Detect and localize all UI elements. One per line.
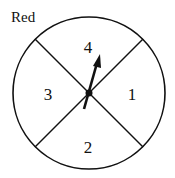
section-label-top: 4: [84, 38, 93, 57]
section-label-right: 1: [128, 85, 137, 104]
spinner-title: Red: [11, 9, 36, 25]
section-label-left: 3: [44, 85, 53, 104]
pointer-arrow-icon: [84, 54, 101, 109]
spinner-pivot: [86, 90, 93, 97]
section-label-bottom: 2: [84, 138, 93, 157]
spinner-diagram: Red 4 1 2 3: [0, 0, 175, 178]
